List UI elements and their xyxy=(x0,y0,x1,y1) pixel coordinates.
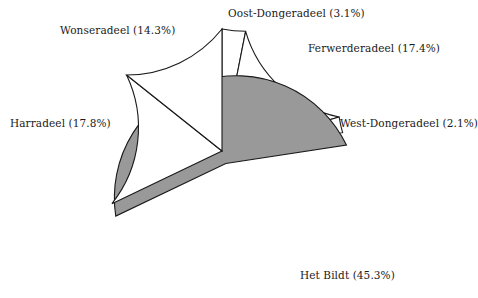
pie-slice-label-oost-dongeradeel: Oost-Dongeradeel (3.1%) xyxy=(228,8,365,20)
pie-slice-label-het-bildt: Het Bildt (45.3%) xyxy=(300,270,395,282)
pie-slice-label-harradeel: Harradeel (17.8%) xyxy=(10,118,111,130)
pie-slice-label-ferwerderadeel: Ferwerderadeel (17.4%) xyxy=(308,43,440,55)
pie-slice-label-wonseradeel: Wonseradeel (14.3%) xyxy=(60,25,175,37)
pie-slice-group xyxy=(112,29,347,216)
pie-slice-label-west-dongeradeel: West-Dongeradeel (2.1%) xyxy=(340,118,478,130)
pie-chart-figure: Oost-Dongeradeel (3.1%) Ferwerderadeel (… xyxy=(0,0,478,298)
